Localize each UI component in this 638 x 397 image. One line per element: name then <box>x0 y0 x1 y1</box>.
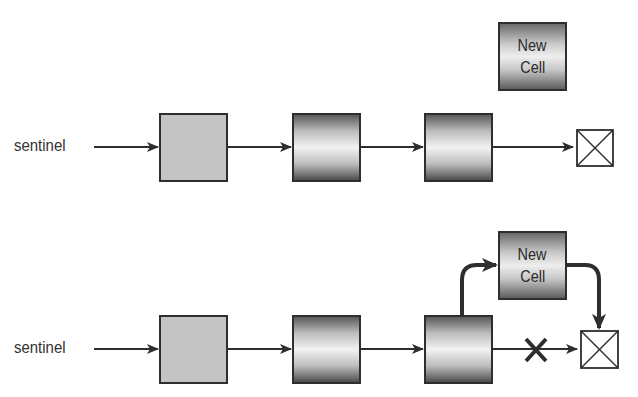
new-cell-label-line1: New <box>518 35 547 57</box>
new-cell: New Cell <box>498 231 567 300</box>
sentinel-cell <box>159 315 228 384</box>
null-terminator-icon <box>577 130 613 166</box>
sentinel-cell <box>159 113 228 182</box>
list-cell <box>292 113 361 182</box>
arrow-new-cell-to-null <box>566 265 599 328</box>
sentinel-label: sentinel <box>14 136 66 156</box>
arrow-cell3-to-new-cell <box>462 265 496 315</box>
new-cell-label-line2: Cell <box>520 57 545 79</box>
new-cell: New Cell <box>498 22 567 91</box>
list-cell <box>424 113 493 182</box>
list-cell <box>292 315 361 384</box>
list-cell <box>424 315 493 384</box>
new-cell-label-line2: Cell <box>520 266 545 288</box>
sentinel-label: sentinel <box>14 338 66 358</box>
null-terminator-icon <box>581 331 618 368</box>
new-cell-label-line1: New <box>518 244 547 266</box>
